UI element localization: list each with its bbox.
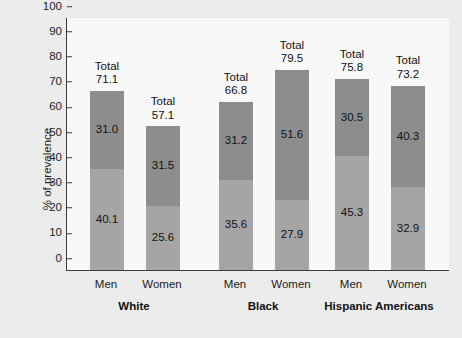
bar-segment-upper-hispanic-women: 40.3 [391,86,425,188]
bar-segment-lower-white-women: 25.6 [146,206,180,271]
y-axis-tick-0: 0 [56,253,67,265]
y-axis-tick-mark [67,208,72,209]
bar-segment-lower-label: 40.1 [96,214,118,226]
y-axis-tick-mark [67,258,72,259]
bar-segment-lower-hispanic-men: 45.3 [335,156,369,270]
bar-segment-lower-label: 25.6 [152,232,174,244]
bar-segment-upper-white-men: 31.0 [90,91,124,169]
bar-segment-lower-label: 45.3 [341,207,363,219]
y-axis-tick-label: 10 [49,228,67,240]
y-axis-tick-70: 70 [49,76,67,88]
x-axis-label-black-men: Men [224,278,246,290]
bar-segment-upper-black-women: 51.6 [275,70,309,200]
bar-segment-lower-hispanic-women: 32.9 [391,187,425,270]
y-axis-tick-mark [67,182,72,183]
y-axis-tick-80: 80 [49,51,67,63]
y-axis-tick-label: 50 [49,127,67,139]
total-value: 75.8 [340,61,364,75]
prevalence-stacked-bar-chart: % of prevalence 0102030405060708090100 4… [0,0,462,338]
bar-segment-upper-label: 40.3 [397,131,419,143]
bar-segment-upper-white-women: 31.5 [146,126,180,205]
total-word: Total [396,54,420,68]
bar-black-women[interactable]: 27.951.6Total79.5 [275,70,309,270]
y-axis-tick-label: 0 [56,253,67,265]
group-label-white: White [118,300,149,312]
y-axis-tick-label: 90 [49,26,67,38]
bar-hispanic-men[interactable]: 45.330.5Total75.8 [335,79,369,270]
bar-segment-upper-label: 31.5 [152,160,174,172]
bar-segment-lower-white-men: 40.1 [90,169,124,270]
y-axis-tick-mark [67,6,72,7]
x-axis-label-white-women: Women [142,278,181,290]
y-axis-tick-10: 10 [49,228,67,240]
total-value: 73.2 [396,68,420,82]
y-axis-tick-20: 20 [49,202,67,214]
bar-total-label-white-women: Total57.1 [151,95,175,122]
x-axis-label-black-women: Women [271,278,310,290]
bar-segment-lower-label: 32.9 [397,223,419,235]
total-word: Total [280,39,304,53]
bar-segment-lower-black-women: 27.9 [275,200,309,270]
group-label-black: Black [248,300,279,312]
x-axis-label-white-men: Men [95,278,117,290]
total-word: Total [340,48,364,62]
bar-total-label-hispanic-women: Total73.2 [396,54,420,81]
plot-area: 0102030405060708090100 40.131.0Total71.1… [66,18,449,271]
y-axis-title: % of prevalence [41,128,53,210]
y-axis-tick-100: 100 [43,1,67,13]
y-axis-tick-40: 40 [49,152,67,164]
bar-total-label-hispanic-men: Total75.8 [340,48,364,75]
bar-segment-lower-label: 35.6 [225,219,247,231]
total-value: 66.8 [224,84,248,98]
y-axis-tick-label: 70 [49,76,67,88]
total-word: Total [95,60,119,74]
bar-segment-upper-label: 31.2 [225,135,247,147]
bar-segment-upper-black-men: 31.2 [219,102,253,181]
bar-segment-lower-label: 27.9 [281,229,303,241]
bar-white-women[interactable]: 25.631.5Total57.1 [146,126,180,270]
y-axis-tick-60: 60 [49,102,67,114]
y-axis-tick-50: 50 [49,127,67,139]
x-axis-label-hispanic-women: Women [387,278,426,290]
bar-segment-lower-black-men: 35.6 [219,180,253,270]
y-axis-tick-mark [67,233,72,234]
y-axis-tick-label: 30 [49,177,67,189]
y-axis-tick-label: 20 [49,202,67,214]
bar-black-men[interactable]: 35.631.2Total66.8 [219,102,253,270]
y-axis-tick-label: 100 [43,1,67,13]
y-axis-tick-30: 30 [49,177,67,189]
bar-white-men[interactable]: 40.131.0Total71.1 [90,91,124,270]
total-value: 79.5 [280,52,304,66]
y-axis-tick-mark [67,31,72,32]
y-axis-tick-mark [67,157,72,158]
y-axis-tick-label: 40 [49,152,67,164]
bar-total-label-black-men: Total66.8 [224,71,248,98]
y-axis-tick-mark [67,107,72,108]
bar-segment-upper-label: 30.5 [341,112,363,124]
bar-segment-upper-hispanic-men: 30.5 [335,79,369,156]
total-value: 71.1 [95,73,119,87]
y-axis-tick-mark [67,132,72,133]
total-value: 57.1 [151,109,175,123]
bar-total-label-black-women: Total79.5 [280,39,304,66]
total-word: Total [151,95,175,109]
bar-hispanic-women[interactable]: 32.940.3Total73.2 [391,86,425,270]
y-axis-tick-mark [67,82,72,83]
x-axis-label-hispanic-men: Men [340,278,362,290]
bar-total-label-white-men: Total71.1 [95,60,119,87]
y-axis-tick-mark [67,56,72,57]
bar-segment-upper-label: 31.0 [96,124,118,136]
y-axis-tick-label: 60 [49,102,67,114]
y-axis-tick-label: 80 [49,51,67,63]
y-axis-tick-90: 90 [49,26,67,38]
total-word: Total [224,71,248,85]
group-label-hispanic-americans: Hispanic Americans [324,300,434,312]
bar-segment-upper-label: 51.6 [281,129,303,141]
